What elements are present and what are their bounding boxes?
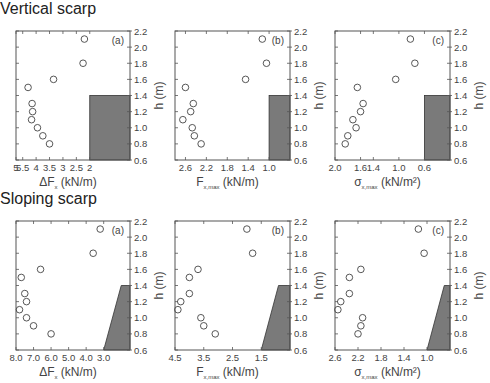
panel-vertical-c-ytick-label: 0.8 <box>454 138 467 149</box>
panel-vertical-a-ytick-label: 1.8 <box>134 58 147 69</box>
panel-vertical-c-xtick-label: 1.6 <box>354 162 367 173</box>
panel-sloping-b-xtick-label: 2.5 <box>226 352 239 363</box>
panel-sloping-a-ytick-label: 1.0 <box>134 312 147 323</box>
panel-vertical-b-ytick-label: 1.2 <box>294 106 307 117</box>
panel-sloping-c-xtick-label: 1.0 <box>420 352 433 363</box>
panel-vertical-b-xlabel: Fx,max (kN/m) <box>196 175 259 190</box>
panel-vertical-a-data-point <box>29 100 36 107</box>
panel-vertical-a-xtick-label: 2 <box>87 162 92 173</box>
panel-vertical-c-data-point <box>407 36 414 43</box>
panel-sloping-b-ytick-label: 0.6 <box>294 345 307 356</box>
panel-vertical-a-xtick-label: 3 <box>60 162 65 173</box>
panel-sloping-a-data-point <box>90 250 97 257</box>
panel-sloping-a-data-point <box>16 306 23 313</box>
panel-sloping-c-ytick-label: 2.0 <box>454 232 467 243</box>
panel-sloping-c-xlabel: σx,max (kN/m²) <box>354 365 421 380</box>
panel-vertical-c-ytick-label: 1.2 <box>454 106 467 117</box>
panel-sloping-b-data-point <box>195 266 202 273</box>
panel-vertical-c-ytick-label: 1.0 <box>454 122 467 133</box>
panel-sloping-b-data-point <box>175 306 182 313</box>
panel-vertical-b-ylabel: h (m) <box>312 82 326 110</box>
panel-sloping-c-ytick-label: 1.4 <box>454 280 467 291</box>
panel-sloping-a-scarp <box>104 286 130 351</box>
panel-sloping-c-ytick-label: 2.2 <box>454 216 467 227</box>
panel-sloping-c-data-point <box>337 298 344 305</box>
panel-sloping-c-ytick-label: 1.2 <box>454 296 467 307</box>
panel-sloping-b-xtick-label: 1.5 <box>255 352 268 363</box>
panel-vertical-a-ylabel: h (m) <box>152 82 166 110</box>
panel-vertical-b-data-point <box>190 100 197 107</box>
charts-canvas: 0.60.81.01.21.41.61.82.02.2h (m)55.543.5… <box>0 0 490 383</box>
panel-vertical-b-data-point <box>187 108 194 115</box>
panel-sloping-a-xlabel: ΔFx (kN/m) <box>39 365 97 380</box>
panel-vertical-c-xtick-label: 1.0 <box>392 162 405 173</box>
panel-vertical-a-xlabel: ΔFx (kN/m) <box>39 175 97 190</box>
panel-vertical-c-scarp <box>424 96 450 161</box>
panel-vertical-a-xtick-label: 3.5 <box>43 162 56 173</box>
panel-vertical-b-label: (b) <box>272 35 284 46</box>
panel-vertical-b-data-point <box>180 116 187 123</box>
panel-vertical-a-data-point <box>81 36 88 43</box>
panel-sloping-a-xtick-label: 8.0 <box>9 352 22 363</box>
panel-sloping-b-xtick-label: 3.5 <box>197 352 210 363</box>
panel-vertical-b-ytick-label: 2.2 <box>294 26 307 37</box>
panel-sloping-b-xlabel: Fx,max (kN/m) <box>196 365 259 380</box>
panel-vertical-a-ytick-label: 1.4 <box>134 90 147 101</box>
panel-vertical-a-ytick-label: 0.8 <box>134 138 147 149</box>
panel-sloping-b-data-point <box>249 250 256 257</box>
panel-vertical-c-ytick-label: 2.2 <box>454 26 467 37</box>
panel-sloping-b-scarp <box>261 286 290 351</box>
panel-sloping-b-data-point <box>186 274 193 281</box>
panel-vertical-c-data-point <box>392 76 399 83</box>
panel-vertical-b-data-point <box>191 133 198 140</box>
panel-sloping-c-label: (c) <box>432 225 444 236</box>
panel-vertical-a-ytick-label: 2.0 <box>134 42 147 53</box>
panel-vertical-c-xlabel: σx,max (kN/m²) <box>354 175 421 190</box>
panel-sloping-b-ytick-label: 1.2 <box>294 296 307 307</box>
panel-vertical-b-ytick-label: 1.0 <box>294 122 307 133</box>
panel-sloping-c-data-point <box>421 250 428 257</box>
panel-vertical-b-ytick-label: 0.8 <box>294 138 307 149</box>
panel-sloping-a-ytick-label: 0.8 <box>134 328 147 339</box>
panel-sloping-c-data-point <box>359 314 366 321</box>
panel-sloping-a-data-point <box>18 274 25 281</box>
panel-vertical-b-data-point <box>189 124 196 131</box>
panel-vertical-b-xtick-label: 2.2 <box>200 162 213 173</box>
panel-sloping-c-scarp <box>427 286 450 351</box>
panel-sloping-b-label: (b) <box>272 225 284 236</box>
panel-vertical-c-ylabel: h (m) <box>472 82 486 110</box>
panel-vertical-a-data-point <box>80 60 87 67</box>
panel-vertical-b-xtick-label: 1.4 <box>242 162 255 173</box>
panel-sloping-a-xtick-label: 7.0 <box>27 352 40 363</box>
panel-vertical-c-data-point <box>342 141 349 148</box>
panel-sloping-b-data-point <box>244 226 251 233</box>
panel-vertical-c-xtick-label: 1.4 <box>367 162 380 173</box>
panel-sloping-b-data-point <box>200 323 207 330</box>
panel-vertical-a-ytick-label: 2.2 <box>134 26 147 37</box>
panel-vertical-c-ytick-label: 1.4 <box>454 90 467 101</box>
panel-sloping-b-ytick-label: 1.6 <box>294 264 307 275</box>
panel-sloping-a-data-point <box>21 290 28 297</box>
panel-vertical-a-ytick-label: 1.6 <box>134 74 147 85</box>
panel-vertical-b-data-point <box>182 84 189 91</box>
panel-sloping-c-data-point <box>415 226 422 233</box>
panel-sloping-b-ytick-label: 0.8 <box>294 328 307 339</box>
panel-vertical-c-data-point <box>350 116 357 123</box>
panel-vertical-b-ytick-label: 1.4 <box>294 90 307 101</box>
panel-sloping-a-xtick-label: 3.0 <box>97 352 110 363</box>
panel-vertical-b-xtick-label: 1.8 <box>221 162 234 173</box>
panel-sloping-b-ytick-label: 1.8 <box>294 248 307 259</box>
panel-vertical-a-data-point <box>40 133 47 140</box>
panel-sloping-a-xtick-label: 4.0 <box>80 352 93 363</box>
panel-sloping-a-ytick-label: 1.4 <box>134 280 147 291</box>
panel-sloping-b-ytick-label: 2.0 <box>294 232 307 243</box>
panel-sloping-c-xtick-label: 2.6 <box>328 352 341 363</box>
panel-vertical-a-data-point <box>29 108 36 115</box>
panel-vertical-a-label: (a) <box>112 35 124 46</box>
panel-sloping-a-ytick-label: 0.6 <box>134 345 147 356</box>
panel-vertical-c-data-point <box>344 133 351 140</box>
panel-sloping-a-xtick-label: 6.0 <box>44 352 57 363</box>
panel-sloping-a-xtick-label: 5.0 <box>62 352 75 363</box>
panel-sloping-a-data-point <box>48 331 55 338</box>
panel-vertical-b-ytick-label: 0.6 <box>294 155 307 166</box>
